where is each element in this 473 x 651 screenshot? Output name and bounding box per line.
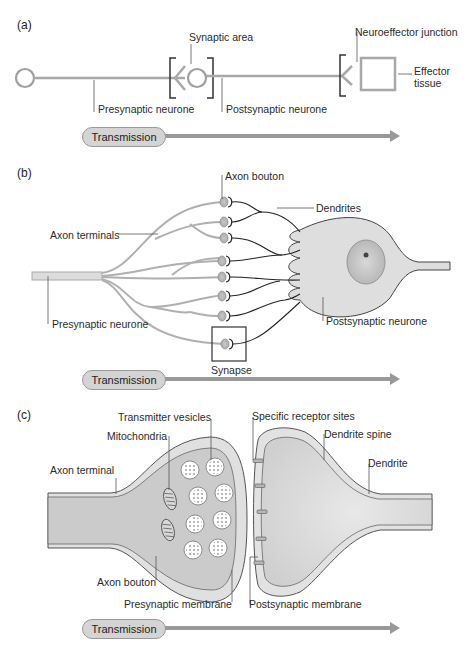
label-presynaptic-membrane: Presynaptic membrane <box>124 598 232 610</box>
panel-a-letter: (a) <box>17 18 32 32</box>
synaptic-transmission-diagram: (a) Synaptic area Neuroeffector junction… <box>0 0 473 651</box>
label-effector: Effector <box>414 65 450 77</box>
label-axon-bouton-b: Axon bouton <box>225 170 284 182</box>
label-presynaptic-neurone-b: Presynaptic neurone <box>52 318 148 330</box>
nucleolus-icon <box>364 253 369 258</box>
transmission-pill-a: Transmission <box>82 127 166 147</box>
panel-a-graphics <box>16 32 412 142</box>
panel-b-letter: (b) <box>17 166 32 180</box>
transmission-pill-b: Transmission <box>82 370 166 390</box>
transmission-pill-c: Transmission <box>82 619 166 639</box>
panel-c-graphics <box>48 417 432 634</box>
label-postsynaptic-membrane: Postsynaptic membrane <box>249 598 362 610</box>
effector-tissue-icon <box>361 58 395 90</box>
label-neuroeffector-junction: Neuroeffector junction <box>355 26 458 38</box>
label-synapse: Synapse <box>211 364 252 376</box>
panel-c-letter: (c) <box>17 408 31 422</box>
axon-bouton-icons <box>218 197 233 349</box>
label-transmitter-vesicles: Transmitter vesicles <box>118 411 211 423</box>
label-axon-terminals: Axon terminals <box>50 229 119 241</box>
label-axon-bouton-c: Axon bouton <box>97 576 156 588</box>
postsynaptic-cell-body-icon <box>188 69 206 87</box>
label-synaptic-area: Synaptic area <box>189 31 253 43</box>
label-dendrite-spine: Dendrite spine <box>324 428 392 440</box>
panel-b-graphics <box>32 175 450 385</box>
label-axon-terminal: Axon terminal <box>50 464 114 476</box>
label-dendrites: Dendrites <box>316 202 361 214</box>
label-postsynaptic-neurone-b: Postsynaptic neurone <box>326 315 427 327</box>
label-presynaptic-neurone-a: Presynaptic neurone <box>98 103 194 115</box>
label-mitochondria: Mitochondria <box>107 430 167 442</box>
nucleus-icon <box>347 240 385 284</box>
label-tissue: tissue <box>414 77 441 89</box>
presynaptic-cell-body-icon <box>16 69 34 87</box>
label-dendrite: Dendrite <box>368 457 408 469</box>
label-postsynaptic-neurone-a: Postsynaptic neurone <box>226 103 327 115</box>
label-specific-receptor-sites: Specific receptor sites <box>252 410 355 422</box>
